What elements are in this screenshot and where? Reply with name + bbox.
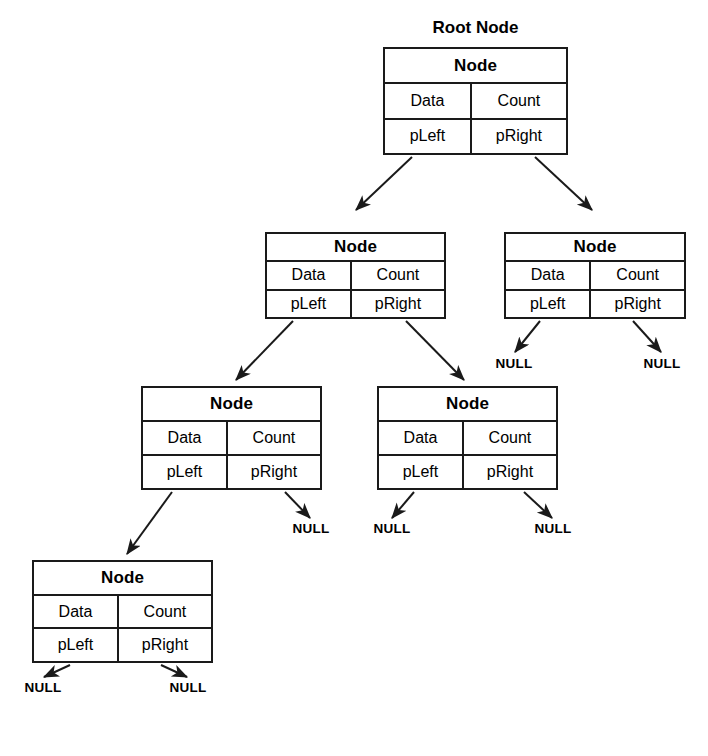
node-header-row: Node [34, 562, 211, 596]
pleft-field-label: pLeft [291, 295, 327, 313]
null-terminator-label: NULL [24, 680, 61, 695]
node-cell-pleft: pLeft [143, 456, 228, 488]
node-header-label: Node [334, 237, 377, 257]
pleft-field-label: pLeft [58, 636, 94, 654]
node-cell-count: Count [228, 422, 320, 454]
count-field-label: Count [616, 266, 659, 284]
pleft-field-label: pLeft [403, 463, 439, 481]
node-cell-data: Data [506, 262, 591, 288]
pright-field-label: pRight [375, 295, 421, 313]
data-field-label: Data [59, 603, 93, 621]
pright-field-label: pRight [496, 127, 542, 145]
binary-tree-diagram: Root Node NodeDataCountpLeftpRightNodeDa… [0, 0, 708, 756]
tree-node-root: NodeDataCountpLeftpRight [383, 47, 568, 155]
tree-node-n-r: NodeDataCountpLeftpRight [504, 232, 686, 319]
node-header-row: Node [379, 388, 556, 422]
node-cell-pleft: pLeft [506, 291, 591, 317]
edge-nl-left [236, 321, 293, 380]
node-cell-pright: pRight [472, 120, 566, 153]
node-cell-data: Data [379, 422, 464, 454]
edge-nll-left [127, 492, 172, 554]
edge-nlr-right [524, 492, 552, 518]
node-cell-pright: pRight [352, 291, 444, 317]
data-field-label: Data [411, 92, 445, 110]
node-header-row: Node [267, 234, 444, 262]
pleft-field-label: pLeft [530, 295, 566, 313]
node-header-label: Node [574, 237, 617, 257]
node-cell-count: Count [591, 262, 684, 288]
node-cell-pright: pRight [119, 629, 211, 661]
node-data-row: DataCount [143, 422, 320, 456]
node-header-row: Node [385, 49, 566, 84]
node-data-row: DataCount [506, 262, 684, 290]
node-cell-count: Count [472, 84, 566, 117]
node-header-row: Node [143, 388, 320, 422]
edge-nlr-left [392, 492, 414, 518]
data-field-label: Data [292, 266, 326, 284]
pright-field-label: pRight [251, 463, 297, 481]
node-cell-pleft: pLeft [34, 629, 119, 661]
edge-root-left [356, 157, 412, 210]
data-field-label: Data [404, 429, 438, 447]
node-cell-data: Data [34, 596, 119, 628]
null-terminator-label: NULL [534, 521, 571, 536]
tree-node-n-l: NodeDataCountpLeftpRight [265, 232, 446, 319]
node-pointer-row: pLeftpRight [506, 291, 684, 317]
node-cell-count: Count [352, 262, 444, 288]
pleft-field-label: pLeft [410, 127, 446, 145]
count-field-label: Count [253, 429, 296, 447]
node-header-label: Node [454, 56, 497, 76]
node-pointer-row: pLeftpRight [379, 456, 556, 488]
null-terminator-label: NULL [495, 356, 532, 371]
tree-node-n-lr: NodeDataCountpLeftpRight [377, 386, 558, 490]
node-data-row: DataCount [34, 596, 211, 630]
null-terminator-label: NULL [643, 356, 680, 371]
node-data-row: DataCount [379, 422, 556, 456]
pright-field-label: pRight [142, 636, 188, 654]
node-data-row: DataCount [385, 84, 566, 119]
node-header-label: Node [210, 394, 253, 414]
node-header-row: Node [506, 234, 684, 262]
count-field-label: Count [377, 266, 420, 284]
count-field-label: Count [498, 92, 541, 110]
edge-nlll-right [161, 665, 187, 677]
node-cell-data: Data [385, 84, 472, 117]
data-field-label: Data [531, 266, 565, 284]
pright-field-label: pRight [487, 463, 533, 481]
tree-node-n-ll: NodeDataCountpLeftpRight [141, 386, 322, 490]
node-pointer-row: pLeftpRight [385, 120, 566, 153]
node-cell-count: Count [119, 596, 211, 628]
data-field-label: Data [168, 429, 202, 447]
edge-nr-right [633, 321, 661, 352]
tree-node-n-lll: NodeDataCountpLeftpRight [32, 560, 213, 663]
node-cell-pleft: pLeft [267, 291, 352, 317]
null-terminator-label: NULL [169, 680, 206, 695]
count-field-label: Count [144, 603, 187, 621]
null-terminator-label: NULL [292, 521, 329, 536]
node-pointer-row: pLeftpRight [267, 291, 444, 317]
node-header-label: Node [101, 568, 144, 588]
edge-root-right [535, 157, 592, 210]
node-cell-pright: pRight [591, 291, 684, 317]
node-cell-pleft: pLeft [379, 456, 464, 488]
pright-field-label: pRight [615, 295, 661, 313]
null-terminator-label: NULL [373, 521, 410, 536]
node-cell-count: Count [464, 422, 556, 454]
count-field-label: Count [489, 429, 532, 447]
edge-nlll-left [44, 665, 70, 677]
node-cell-data: Data [267, 262, 352, 288]
root-node-caption: Root Node [383, 18, 568, 38]
node-header-label: Node [446, 394, 489, 414]
node-data-row: DataCount [267, 262, 444, 290]
edge-nr-left [515, 321, 540, 352]
pleft-field-label: pLeft [167, 463, 203, 481]
edge-nll-right [285, 492, 310, 518]
node-cell-data: Data [143, 422, 228, 454]
node-cell-pright: pRight [228, 456, 320, 488]
node-pointer-row: pLeftpRight [143, 456, 320, 488]
node-cell-pleft: pLeft [385, 120, 472, 153]
edge-nl-right [406, 321, 464, 380]
node-pointer-row: pLeftpRight [34, 629, 211, 661]
node-cell-pright: pRight [464, 456, 556, 488]
